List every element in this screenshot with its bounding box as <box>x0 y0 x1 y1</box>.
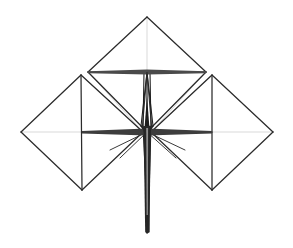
wireframe-diagram <box>0 0 293 248</box>
figure-root <box>0 0 293 248</box>
